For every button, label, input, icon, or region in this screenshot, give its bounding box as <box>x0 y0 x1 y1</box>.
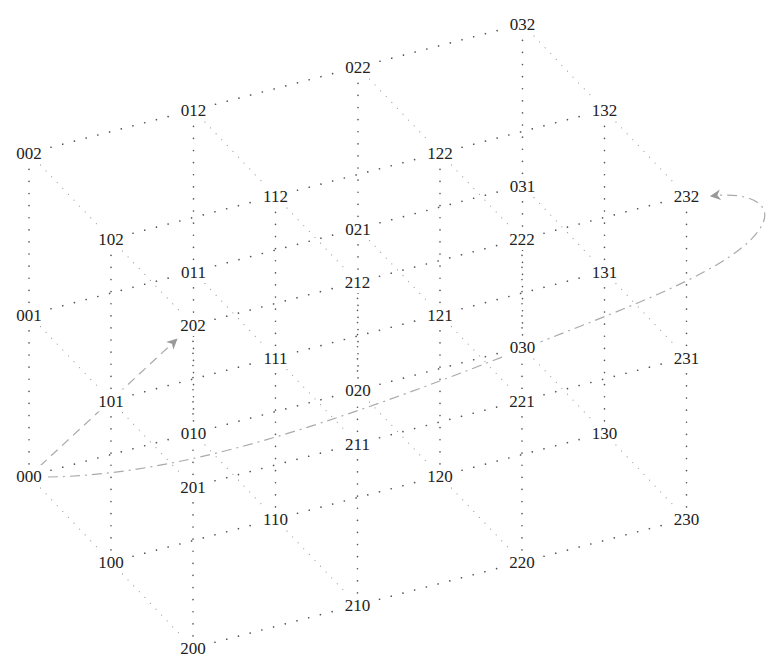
edge-132-232 <box>616 122 675 184</box>
node-labels: 0000010020100110120200210220300310321001… <box>11 13 705 659</box>
node-label-120: 120 <box>427 467 453 486</box>
node-label-100: 100 <box>98 553 124 572</box>
edge-010-110 <box>205 445 264 507</box>
edge-021-121 <box>369 241 428 303</box>
node-label-032: 032 <box>510 15 536 34</box>
node-label-131: 131 <box>592 263 618 282</box>
edge-122-132 <box>462 116 583 147</box>
edge-012-022 <box>216 73 337 104</box>
edge-211-221 <box>380 406 501 437</box>
node-label-102: 102 <box>98 230 124 249</box>
edge-200-210 <box>215 611 336 642</box>
edge-100-200 <box>122 574 181 636</box>
edge-222-232 <box>544 202 665 233</box>
edge-031-131 <box>534 198 593 260</box>
edge-112-212 <box>287 208 346 270</box>
node-label-210: 210 <box>345 596 371 615</box>
node-label-222: 222 <box>509 230 535 249</box>
node-label-101: 101 <box>98 392 124 411</box>
node-label-031: 031 <box>510 177 536 196</box>
node-label-211: 211 <box>345 435 370 454</box>
edge-220-230 <box>544 525 665 556</box>
edge-022-032 <box>380 30 501 61</box>
edge-212-222 <box>380 245 501 276</box>
node-label-232: 232 <box>674 187 700 206</box>
node-label-130: 130 <box>592 424 618 443</box>
node-label-231: 231 <box>674 349 700 368</box>
edge-110-210 <box>287 531 346 593</box>
edge-130-230 <box>616 445 675 507</box>
edge-002-102 <box>40 165 99 227</box>
node-label-002: 002 <box>16 144 42 163</box>
edge-101-201 <box>122 413 181 475</box>
node-label-212: 212 <box>345 273 371 292</box>
edge-001-101 <box>40 327 99 389</box>
highlight-paths <box>40 195 765 477</box>
edge-022-122 <box>369 79 428 141</box>
edge-102-112 <box>133 202 254 233</box>
lattice-diagram: 0000010020100110120200210220300310321001… <box>0 0 767 669</box>
edge-131-231 <box>616 284 675 346</box>
node-label-010: 010 <box>181 424 207 443</box>
node-label-000: 000 <box>16 467 42 486</box>
dashdot-path <box>48 195 765 477</box>
lattice-edges <box>29 30 687 642</box>
edge-111-211 <box>287 370 346 432</box>
edge-120-220 <box>451 488 510 550</box>
edge-002-012 <box>51 116 172 147</box>
node-label-201: 201 <box>180 478 206 497</box>
node-label-030: 030 <box>510 338 536 357</box>
edge-210-220 <box>380 568 501 599</box>
node-label-020: 020 <box>345 381 371 400</box>
edge-202-212 <box>215 288 336 319</box>
edge-020-120 <box>369 402 428 464</box>
edge-201-211 <box>215 449 336 480</box>
node-label-220: 220 <box>509 553 535 572</box>
edge-030-130 <box>534 359 593 421</box>
node-label-011: 011 <box>181 263 206 282</box>
edge-221-231 <box>544 363 665 394</box>
node-label-021: 021 <box>345 220 371 239</box>
node-label-221: 221 <box>509 392 535 411</box>
node-label-122: 122 <box>427 144 453 163</box>
node-label-022: 022 <box>345 58 371 77</box>
node-label-111: 111 <box>263 349 287 368</box>
edge-122-222 <box>451 165 510 227</box>
edge-000-100 <box>40 488 99 550</box>
edge-012-112 <box>205 122 264 184</box>
node-label-110: 110 <box>263 510 288 529</box>
node-label-132: 132 <box>592 101 618 120</box>
node-label-200: 200 <box>180 639 206 658</box>
node-label-121: 121 <box>427 306 453 325</box>
node-label-012: 012 <box>181 101 207 120</box>
edge-112-122 <box>298 159 419 190</box>
edge-032-132 <box>534 36 593 98</box>
node-label-112: 112 <box>263 187 288 206</box>
edge-011-111 <box>205 284 264 346</box>
node-label-001: 001 <box>16 306 42 325</box>
node-label-230: 230 <box>674 510 700 529</box>
edge-102-202 <box>122 251 181 313</box>
node-label-202: 202 <box>180 316 206 335</box>
